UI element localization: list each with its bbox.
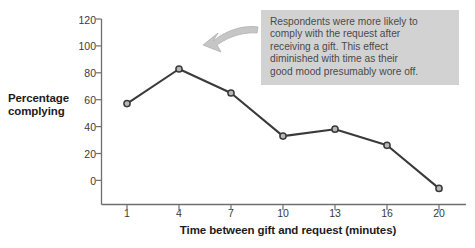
callout-line-3: receiving a gift. This effect <box>270 41 451 53</box>
data-point-13 <box>332 126 338 132</box>
data-point-4 <box>176 66 182 72</box>
data-point-7 <box>228 90 234 96</box>
callout-arrow-icon <box>203 27 258 52</box>
callout-line-4: diminished with time as their <box>270 53 451 65</box>
x-axis-ticks <box>127 205 439 211</box>
data-point-16 <box>384 142 390 148</box>
data-series-line <box>127 69 439 188</box>
data-point-1 <box>124 101 130 107</box>
callout-line-2: comply with the request after <box>270 28 451 40</box>
callout-line-5: good mood presumably wore off. <box>270 66 451 78</box>
y-axis-ticks <box>96 19 102 180</box>
data-point-10 <box>280 133 286 139</box>
callout-line-1: Respondents were more likely to <box>270 16 451 28</box>
chart-container: Percentage complying 120 100 80 60 40 20… <box>0 0 475 248</box>
data-point-20 <box>436 185 442 191</box>
callout-box: Respondents were more likely to comply w… <box>261 10 459 85</box>
x-axis-title: Time between gift and request (minutes) <box>101 224 475 236</box>
